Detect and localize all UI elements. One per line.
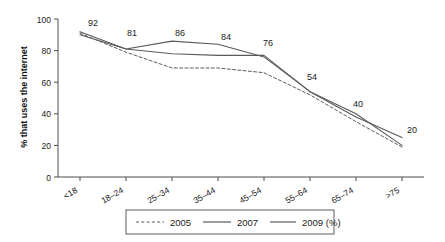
x-tick-label-2: 25–34 (146, 185, 172, 206)
legend-label-2009: 2009 (%) (302, 217, 341, 228)
data-label-1: 81 (127, 28, 137, 38)
y-axis-ticks (54, 19, 58, 177)
x-axis-ticks (80, 177, 402, 181)
y-axis-tick-labels: 100 80 60 40 20 0 (37, 15, 51, 183)
data-label-3: 84 (221, 32, 231, 42)
y-axis-title: % that uses the internet (19, 46, 29, 148)
x-tick-label-3: 35–44 (192, 185, 218, 206)
series-group (80, 32, 402, 147)
legend: 2005 2007 2009 (%) (126, 210, 341, 234)
chart-container: % that uses the internet 100 80 60 40 20… (0, 0, 445, 242)
data-label-7: 20 (407, 125, 417, 135)
line-chart: % that uses the internet 100 80 60 40 20… (0, 0, 445, 242)
y-tick-label-0: 0 (46, 173, 51, 183)
data-label-6: 40 (353, 99, 363, 109)
data-label-0: 92 (88, 18, 98, 28)
y-tick-label-40: 40 (42, 109, 52, 119)
data-label-4: 76 (263, 38, 273, 48)
x-tick-label-7: >75 (384, 185, 402, 201)
data-label-group: 92 81 86 84 76 54 40 20 (88, 18, 417, 135)
series-line-2009 (80, 32, 402, 146)
x-axis-tick-labels: <18 18–24 25–34 35–44 45–54 55–64 65–74 … (62, 185, 402, 206)
y-tick-label-20: 20 (42, 141, 52, 151)
y-tick-label-100: 100 (37, 15, 51, 25)
legend-label-2007: 2007 (237, 217, 258, 228)
x-tick-label-6: 65–74 (330, 185, 356, 206)
data-label-5: 54 (307, 72, 317, 82)
data-label-2: 86 (175, 28, 185, 38)
x-tick-label-1: 18–24 (100, 185, 126, 206)
legend-label-2005: 2005 (170, 217, 191, 228)
x-tick-label-4: 45–54 (238, 185, 264, 206)
y-tick-label-60: 60 (42, 78, 52, 88)
x-tick-label-5: 55–64 (284, 185, 310, 206)
y-tick-label-80: 80 (42, 46, 52, 56)
x-tick-label-0: <18 (62, 185, 80, 201)
